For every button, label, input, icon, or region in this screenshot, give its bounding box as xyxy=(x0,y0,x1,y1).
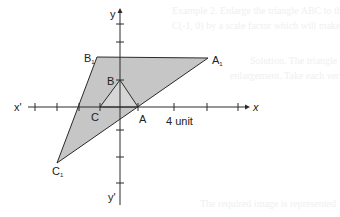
enlargement-diagram: y y' x x' B C A B1 A1 C1 4 unit xyxy=(0,0,340,217)
point-label-a: A xyxy=(139,113,147,125)
scale-annotation: 4 unit xyxy=(166,115,193,127)
point-label-c: C xyxy=(91,111,99,123)
point-label-b1: B1 xyxy=(84,52,95,65)
x-axis-label: x xyxy=(252,101,259,113)
point-label-c1: C1 xyxy=(52,165,64,178)
triangle-a1b1c1 xyxy=(57,57,208,163)
point-label-b: B xyxy=(107,75,114,87)
y-axis-arrow-icon xyxy=(118,8,123,13)
y-neg-axis-label: y' xyxy=(108,191,116,203)
x-axis-arrow-icon xyxy=(245,105,250,110)
point-label-a1: A1 xyxy=(212,54,223,67)
y-axis-label: y xyxy=(110,8,116,20)
x-neg-axis-label: x' xyxy=(14,101,22,113)
